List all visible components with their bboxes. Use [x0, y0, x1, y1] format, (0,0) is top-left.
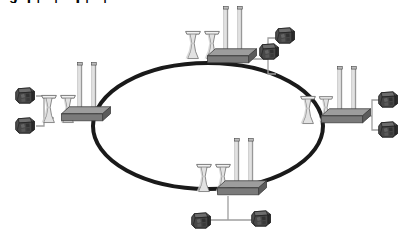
node-bottom-plant-base[interactable]: [218, 181, 267, 195]
node-left-label: left-power-plant: [0, 0, 111, 3]
node-top-cluster-2[interactable]: [260, 44, 279, 59]
node-left-cluster-2[interactable]: [16, 118, 35, 133]
node-left-plant-base[interactable]: [62, 107, 111, 121]
node-left-smokestack-2: [92, 62, 97, 114]
node-left-smokestack-1: [78, 62, 83, 114]
node-right-cluster-1[interactable]: [379, 92, 398, 107]
node-right-plant-base[interactable]: [322, 109, 371, 123]
node-top-cooling-tower-1: [186, 31, 201, 58]
diagram-canvas: Ring network topology of power plant sit…: [0, 0, 408, 236]
node-right-cluster-2[interactable]: [379, 122, 398, 137]
node-bottom-cluster-2[interactable]: [252, 211, 271, 226]
ring-backbone: [93, 63, 323, 189]
node-bottom-cluster-1[interactable]: [192, 213, 211, 228]
node-right[interactable]: right-power-plant: [0, 0, 397, 137]
node-top[interactable]: top-power-plant: [0, 0, 294, 74]
node-bottom-link-line: [206, 196, 252, 220]
node-bottom[interactable]: bottom-power-plant: [0, 0, 270, 228]
node-bottom-links: [206, 196, 252, 220]
node-top-cluster-1[interactable]: [276, 28, 295, 43]
node-left-cluster-1[interactable]: [16, 88, 35, 103]
ring-backbone-ellipse: [93, 63, 323, 189]
node-left[interactable]: left-power-plant: [0, 0, 111, 133]
network-topology-diagram: top-power-plant right-power-plant: [0, 0, 408, 236]
node-top-plant-base[interactable]: [208, 49, 257, 63]
